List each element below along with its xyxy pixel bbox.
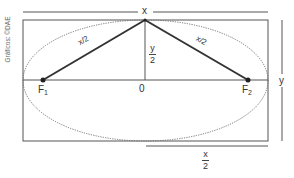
label-half-height: y 2	[149, 44, 156, 65]
half-height-numerator: y	[149, 44, 156, 53]
label-origin: 0	[139, 84, 145, 94]
focus-point-f1	[41, 78, 46, 83]
label-top-x: x	[142, 6, 147, 16]
top-vertex-point	[144, 19, 147, 22]
f2-subscript: 2	[248, 89, 252, 96]
ellipse-diagram: Gráficos: ©DAE x y y 2 x 2 x/2 x/2 F1 F2…	[0, 0, 294, 178]
image-credit: Gráficos: ©DAE	[4, 15, 11, 65]
label-f1: F1	[38, 85, 48, 96]
label-right-y: y	[279, 76, 284, 86]
segment-top-to-f2	[145, 20, 248, 80]
half-width-numerator: x	[202, 150, 209, 159]
label-half-width: x 2	[202, 150, 209, 171]
focus-point-f2	[246, 78, 251, 83]
half-width-denominator: 2	[202, 162, 209, 171]
label-f2: F2	[242, 85, 252, 96]
f1-subscript: 1	[44, 89, 48, 96]
segment-f1-to-top	[43, 20, 145, 80]
half-height-denominator: 2	[149, 56, 156, 65]
